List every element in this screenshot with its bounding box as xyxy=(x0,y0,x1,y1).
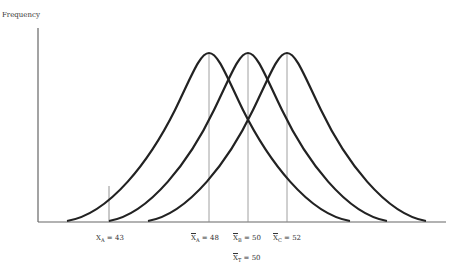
mean-a-label: XA = 48 xyxy=(191,234,219,243)
distribution-plot xyxy=(0,0,460,272)
mean-total-label: XT = 50 xyxy=(233,254,261,263)
xa-43-label: XA = 43 xyxy=(96,234,124,243)
mean-b-label: XB = 50 xyxy=(233,234,261,243)
mean-c-label: XC = 52 xyxy=(273,234,301,243)
curve-a xyxy=(67,53,350,221)
